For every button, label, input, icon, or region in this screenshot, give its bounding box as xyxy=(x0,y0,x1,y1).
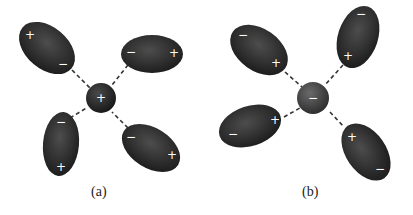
svg-text:+: + xyxy=(96,91,106,105)
svg-text:+: + xyxy=(167,148,177,162)
svg-text:+: + xyxy=(270,113,280,127)
dipole-b-upper-left: − + xyxy=(221,14,298,85)
dipole-a-lower-right: − + xyxy=(113,114,188,182)
dipole-b-upper-right: − + xyxy=(329,0,387,73)
caption-a: (a) xyxy=(91,184,107,200)
panel-b: − + − + − + + − − xyxy=(213,0,400,189)
svg-text:−: − xyxy=(126,130,136,144)
svg-text:−: − xyxy=(356,7,366,21)
svg-text:−: − xyxy=(58,57,68,71)
svg-text:+: + xyxy=(169,46,179,60)
svg-text:+: + xyxy=(25,28,35,42)
dipole-b-lower-left: − + xyxy=(213,97,286,155)
svg-text:−: − xyxy=(56,115,66,129)
svg-text:−: − xyxy=(238,28,248,42)
svg-text:−: − xyxy=(228,127,238,141)
svg-text:+: + xyxy=(343,49,353,63)
svg-text:−: − xyxy=(375,162,385,176)
svg-text:+: + xyxy=(347,130,357,144)
svg-text:+: + xyxy=(56,160,66,174)
svg-text:+: + xyxy=(271,56,281,70)
ion-dipole-figure: + − − + − + − + + xyxy=(0,0,413,215)
panel-a: + − − + − + − + + xyxy=(9,11,189,182)
caption-b: (b) xyxy=(302,184,318,200)
center-ion-b: − xyxy=(297,82,329,114)
diagram-svg: + − − + − + − + + xyxy=(0,0,413,215)
svg-text:−: − xyxy=(126,45,136,59)
svg-text:−: − xyxy=(308,91,318,105)
dipole-a-upper-left: + − xyxy=(9,11,85,84)
dipole-a-lower-left: − + xyxy=(40,111,81,178)
dipole-a-upper-right: − + xyxy=(121,35,183,73)
center-ion-a: + xyxy=(86,83,116,113)
